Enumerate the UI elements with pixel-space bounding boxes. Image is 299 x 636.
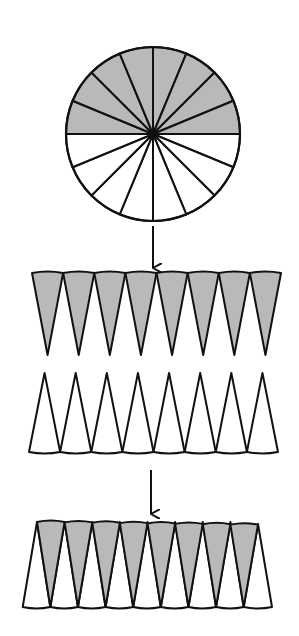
white-wedge xyxy=(122,373,153,454)
gray-wedge xyxy=(157,272,188,356)
white-wedge xyxy=(29,373,60,454)
gray-wedge xyxy=(219,272,250,356)
white-wedge xyxy=(91,373,122,454)
transform-arrows xyxy=(151,226,153,514)
gray-wedge xyxy=(188,272,219,356)
white-wedge xyxy=(154,373,185,454)
diagram-svg xyxy=(0,0,299,636)
diagram-canvas xyxy=(0,0,299,636)
gray-wedge xyxy=(32,272,63,356)
gray-wedge xyxy=(250,272,281,356)
white-wedge-row xyxy=(29,373,278,454)
divided-circle xyxy=(66,47,240,221)
gray-wedge xyxy=(94,272,125,356)
circle-center-dot xyxy=(148,129,158,139)
white-wedge xyxy=(216,373,247,454)
white-wedge xyxy=(185,373,216,454)
white-wedge xyxy=(60,373,91,454)
interleaved-parallelogram xyxy=(23,521,272,609)
gray-wedge-row xyxy=(32,272,281,356)
gray-wedge xyxy=(125,272,156,356)
white-wedge xyxy=(247,373,278,454)
gray-wedge xyxy=(63,272,94,356)
